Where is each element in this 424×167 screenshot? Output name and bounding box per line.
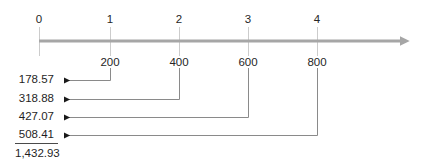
number-line-diagram: 0 1 2 3 4 200 400 600 800 178.57 318.88 … bbox=[0, 0, 424, 167]
scale-label-200: 200 bbox=[100, 57, 119, 69]
value-label-4: 508.41 bbox=[0, 129, 54, 141]
scale-label-800: 800 bbox=[307, 57, 326, 69]
axis-tick-marks bbox=[40, 27, 318, 56]
value-label-1: 178.57 bbox=[0, 74, 54, 86]
value-label-2: 318.88 bbox=[0, 93, 54, 105]
connector-line-1 bbox=[64, 68, 111, 81]
scale-label-400: 400 bbox=[169, 57, 188, 69]
index-label-0: 0 bbox=[36, 14, 42, 26]
value-label-3: 427.07 bbox=[0, 111, 54, 123]
connector-line-4 bbox=[64, 68, 318, 136]
total-value-label: 1,432.93 bbox=[15, 148, 60, 160]
index-label-2: 2 bbox=[176, 14, 182, 26]
index-label-3: 3 bbox=[245, 14, 251, 26]
index-label-4: 4 bbox=[314, 14, 320, 26]
index-label-1: 1 bbox=[107, 14, 113, 26]
diagram-vector-layer bbox=[0, 0, 424, 167]
connector-line-2 bbox=[64, 68, 180, 100]
scale-label-600: 600 bbox=[238, 57, 257, 69]
connector-line-3 bbox=[64, 68, 249, 118]
